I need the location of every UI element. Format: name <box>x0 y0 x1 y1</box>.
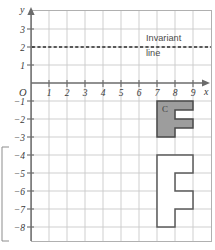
y-tick-m1: −1 <box>14 97 25 107</box>
y-tick-m3: −3 <box>14 133 25 143</box>
x-tick-3: 3 <box>82 88 88 98</box>
y-tick-m2: −2 <box>14 115 25 125</box>
y-tick-m8: −8 <box>14 223 25 233</box>
x-tick-2: 2 <box>65 88 70 98</box>
invariant-label-line1: Invariant <box>146 33 182 43</box>
x-tick-9: 9 <box>191 88 196 98</box>
x-tick-1: 1 <box>47 88 52 98</box>
x-tick-8: 8 <box>173 88 178 98</box>
shape-c-label: C <box>162 104 168 114</box>
x-axis-label: x <box>203 86 209 97</box>
y-axis-label: y <box>19 4 25 15</box>
y-tick-1: 1 <box>20 61 25 71</box>
y-tick-labels: 3 2 1 −1 −2 −3 −4 −5 −6 −7 −8 <box>14 25 26 233</box>
y-tick-3: 3 <box>19 25 25 35</box>
coordinate-grid-figure: y x O 3 2 1 −1 −2 −3 −4 −5 −6 −7 −8 1 2 … <box>0 0 215 250</box>
y-tick-m7: −7 <box>14 205 26 215</box>
x-tick-7: 7 <box>155 88 161 98</box>
invariant-label-line2: line <box>146 48 160 58</box>
x-tick-6: 6 <box>137 88 142 98</box>
y-tick-m6: −6 <box>14 187 25 197</box>
y-tick-m4: −4 <box>14 151 25 161</box>
x-tick-5: 5 <box>119 88 124 98</box>
shape-image-open <box>157 155 193 227</box>
x-tick-labels: 1 2 3 4 5 6 7 8 9 <box>47 88 196 98</box>
left-edge-bracket <box>2 147 9 241</box>
y-tick-2: 2 <box>20 43 25 53</box>
graph-svg: y x O 3 2 1 −1 −2 −3 −4 −5 −6 −7 −8 1 2 … <box>0 0 215 250</box>
x-tick-4: 4 <box>101 88 106 98</box>
y-tick-m5: −5 <box>14 169 25 179</box>
